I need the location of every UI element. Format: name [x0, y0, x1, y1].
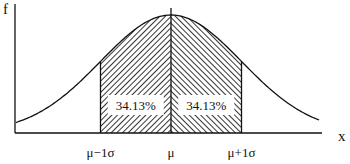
x-tick-label: μ	[168, 145, 175, 160]
percent-label: 34.13%	[116, 98, 156, 113]
y-axis-label: f	[3, 1, 8, 17]
percent-label: 34.13%	[186, 98, 226, 113]
shaded-region-2	[171, 15, 242, 133]
normal-distribution-diagram: f x μ−1σμμ+1σ 34.13%34.13%	[0, 0, 350, 164]
x-tick-label: μ−1σ	[87, 145, 115, 160]
x-axis-label: x	[338, 128, 346, 144]
shaded-region-1	[101, 15, 172, 133]
x-tick-label: μ+1σ	[228, 145, 256, 160]
